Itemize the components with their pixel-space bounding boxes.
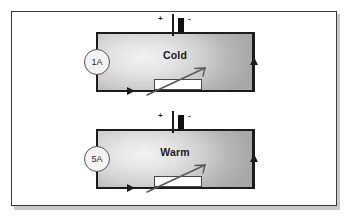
ammeter-reading: 5A bbox=[84, 146, 110, 172]
battery-short-plate bbox=[178, 115, 184, 129]
thermistor-diagonal-arrow bbox=[143, 162, 217, 194]
battery-long-plate bbox=[172, 111, 174, 133]
current-arrow-bottom bbox=[127, 87, 135, 95]
ammeter-reading: 1A bbox=[84, 49, 110, 75]
warm-circuit: + - Warm 5A bbox=[97, 130, 253, 188]
current-arrow-right bbox=[250, 57, 258, 65]
battery-long-plate bbox=[172, 14, 174, 36]
cold-circuit: + - Cold 1A bbox=[97, 33, 253, 91]
current-arrow-right bbox=[250, 154, 258, 162]
circuit-diagram-figure: + - Cold 1A + - bbox=[0, 0, 350, 219]
temperature-label: Cold bbox=[97, 49, 253, 61]
battery-symbol: + - bbox=[169, 111, 191, 133]
temperature-label: Warm bbox=[97, 146, 253, 158]
battery-positive-label: + bbox=[158, 15, 163, 23]
battery-negative-label: - bbox=[188, 15, 191, 23]
battery-short-plate bbox=[178, 18, 184, 32]
battery-positive-label: + bbox=[158, 112, 163, 120]
current-arrow-bottom bbox=[127, 184, 135, 192]
battery-negative-label: - bbox=[188, 112, 191, 120]
battery-symbol: + - bbox=[169, 14, 191, 36]
thermistor-diagonal-arrow bbox=[143, 65, 217, 97]
